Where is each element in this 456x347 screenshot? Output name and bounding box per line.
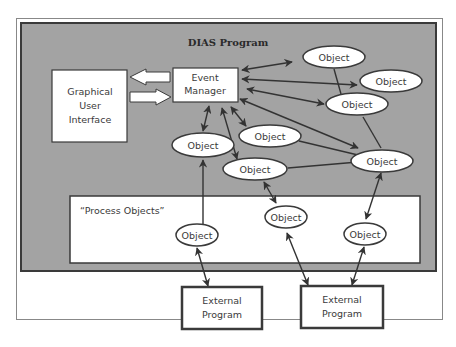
svg-text:Graphical: Graphical xyxy=(67,86,112,97)
svg-text:Object: Object xyxy=(271,212,302,223)
object-node: Object xyxy=(351,150,413,172)
graphical-user-interface-box: Graphical User Interface xyxy=(52,70,127,142)
object-node: Object xyxy=(223,158,287,180)
svg-text:User: User xyxy=(79,100,101,111)
process-object-node: Object xyxy=(265,206,307,228)
svg-text:Object: Object xyxy=(367,156,398,167)
process-object-node: Object xyxy=(344,223,386,245)
object-node: Object xyxy=(172,133,234,157)
svg-text:External: External xyxy=(202,295,241,306)
process-objects-label: “Process Objects” xyxy=(80,205,165,216)
svg-text:Program: Program xyxy=(322,308,362,319)
event-manager-box: Event Manager xyxy=(173,68,238,102)
svg-text:Object: Object xyxy=(342,99,373,110)
svg-text:Object: Object xyxy=(319,52,350,63)
object-node: Object xyxy=(326,93,388,115)
svg-text:Manager: Manager xyxy=(184,85,226,96)
svg-text:Object: Object xyxy=(182,230,213,241)
svg-text:Interface: Interface xyxy=(69,114,112,125)
dias-program-title: DIAS Program xyxy=(188,37,269,48)
external-program-box: External Program xyxy=(301,286,383,328)
svg-text:Object: Object xyxy=(350,229,381,240)
svg-text:Program: Program xyxy=(202,309,242,320)
svg-text:Object: Object xyxy=(240,164,271,175)
svg-text:Event: Event xyxy=(191,72,218,83)
object-node: Object xyxy=(239,125,301,147)
dias-architecture-diagram: DIAS Program “Process Objects” Graphical… xyxy=(0,0,456,347)
svg-text:Object: Object xyxy=(188,140,219,151)
svg-text:Object: Object xyxy=(255,131,286,142)
svg-text:Object: Object xyxy=(376,76,407,87)
process-object-node: Object xyxy=(176,224,218,246)
object-node: Object xyxy=(360,70,422,92)
external-program-box: External Program xyxy=(182,287,262,329)
object-node: Object xyxy=(303,46,365,68)
svg-text:External: External xyxy=(322,294,361,305)
